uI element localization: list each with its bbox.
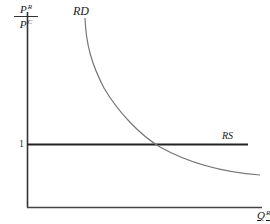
- rd-curve: [85, 18, 260, 175]
- x-axis-label: QR: [257, 210, 270, 221]
- rs-label: RS: [222, 131, 233, 141]
- relative-supply-demand-diagram: PR PC 1 RD RS QR: [0, 0, 270, 224]
- y-axis-label-denominator: PC: [14, 19, 38, 30]
- fraction-bar: [14, 16, 38, 17]
- y-axis-label-numerator: PR: [14, 4, 38, 15]
- rd-label: RD: [73, 5, 89, 17]
- y-tick-label-1: 1: [19, 139, 24, 149]
- y-axis-label: PR PC: [14, 4, 38, 30]
